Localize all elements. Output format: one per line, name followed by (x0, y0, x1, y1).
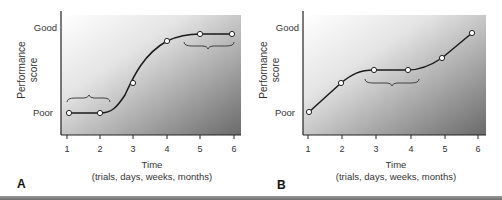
x-axis-title: Time (142, 159, 163, 170)
y-label-poor: Poor (33, 107, 53, 118)
bottom-divider-bar (0, 196, 502, 200)
tick-label: 4 (408, 144, 413, 154)
tick-label: 6 (475, 144, 480, 154)
x-axis-title: Time (386, 159, 407, 170)
x-axis-subtitle: (trials, days, weeks, months) (336, 171, 456, 182)
y-label-poor: Poor (275, 107, 295, 118)
svg-text:Performance: Performance (16, 41, 27, 99)
x-tick-labels: 1 2 3 4 5 6 (64, 144, 236, 154)
tick-label: 3 (130, 144, 135, 154)
figure: 1 2 3 4 5 6 Good Poor Performance score … (0, 0, 502, 200)
svg-text:Performance: Performance (258, 41, 269, 99)
tick-label: 5 (197, 144, 202, 154)
tick-label: 3 (373, 144, 378, 154)
tick-label: 2 (97, 144, 102, 154)
panel-a: 1 2 3 4 5 6 Good Poor Performance score … (16, 11, 241, 191)
x-axis-subtitle: (trials, days, weeks, months) (92, 171, 212, 182)
tick-label: 2 (339, 144, 344, 154)
tick-label: 6 (231, 144, 236, 154)
tick-label: 1 (305, 144, 310, 154)
y-label-good: Good (34, 22, 57, 33)
panel-b: 1 2 3 4 5 6 Good Poor Performance score … (258, 11, 486, 192)
x-ticks (308, 135, 478, 139)
tick-label: 4 (164, 144, 169, 154)
tick-label: 5 (442, 144, 447, 154)
plot-area-background (61, 15, 241, 135)
svg-text:score: score (28, 57, 39, 82)
panel-label: A (17, 177, 26, 191)
x-ticks (67, 135, 234, 139)
svg-text:score: score (270, 57, 281, 82)
y-axis-title: Performance score (258, 41, 281, 99)
tick-label: 1 (64, 144, 69, 154)
y-axis-title: Performance score (16, 41, 39, 99)
plot-area-background (303, 15, 486, 135)
y-label-good: Good (276, 22, 299, 33)
panel-label: B (277, 178, 286, 192)
x-tick-labels: 1 2 3 4 5 6 (305, 144, 480, 154)
